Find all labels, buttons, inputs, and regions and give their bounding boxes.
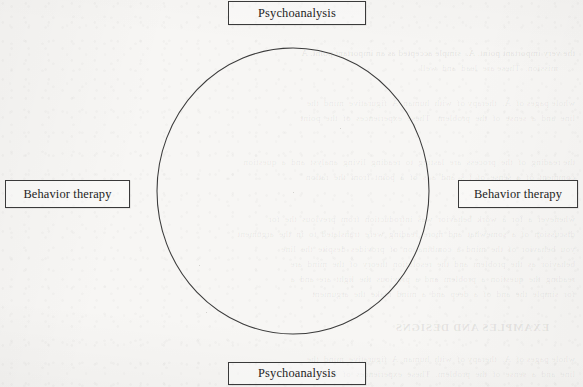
node-label-bottom: Psychoanalysis [258,366,336,381]
scanned-page: the very important point. A. simple acce… [0,0,583,387]
diagram: Psychoanalysis Behavior therapy Behavior… [0,0,583,387]
node-box-top[interactable]: Psychoanalysis [228,1,366,25]
node-label-right: Behavior therapy [474,187,562,202]
node-label-top: Psychoanalysis [258,6,336,21]
node-box-right[interactable]: Behavior therapy [458,180,578,208]
continuum-circle [157,48,429,334]
node-label-left: Behavior therapy [23,187,111,202]
node-box-bottom[interactable]: Psychoanalysis [228,362,366,385]
node-box-left[interactable]: Behavior therapy [5,180,130,208]
